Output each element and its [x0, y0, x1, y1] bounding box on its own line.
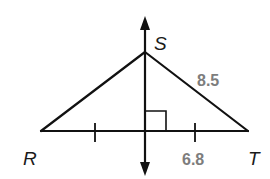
arrow-up-icon: [140, 16, 150, 30]
side-ST: [145, 52, 248, 131]
arrow-down-icon: [140, 162, 150, 176]
side-RS: [41, 52, 145, 131]
vertex-label-R: R: [23, 148, 37, 169]
measure-label-ST: 8.5: [197, 72, 219, 89]
measure-label-half-RT: 6.8: [182, 151, 204, 168]
geometry-diagram: S R T 8.5 6.8: [0, 0, 270, 179]
vertex-label-T: T: [248, 148, 261, 169]
vertex-label-S: S: [154, 33, 167, 54]
right-angle-mark: [146, 111, 166, 131]
